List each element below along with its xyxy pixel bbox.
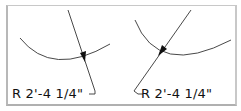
arc (20, 38, 110, 60)
leader-hook (89, 91, 95, 94)
radius-dimension-diagram: R 2'-4 1/4" R 2'-4 1/4" (0, 0, 241, 111)
arc (135, 20, 231, 55)
left-panel: R 2'-4 1/4" (12, 10, 110, 101)
right-panel: R 2'-4 1/4" (134, 10, 231, 101)
radius-label: R 2'-4 1/4" (141, 86, 212, 101)
radius-label: R 2'-4 1/4" (12, 86, 83, 101)
leader-line (68, 10, 95, 91)
